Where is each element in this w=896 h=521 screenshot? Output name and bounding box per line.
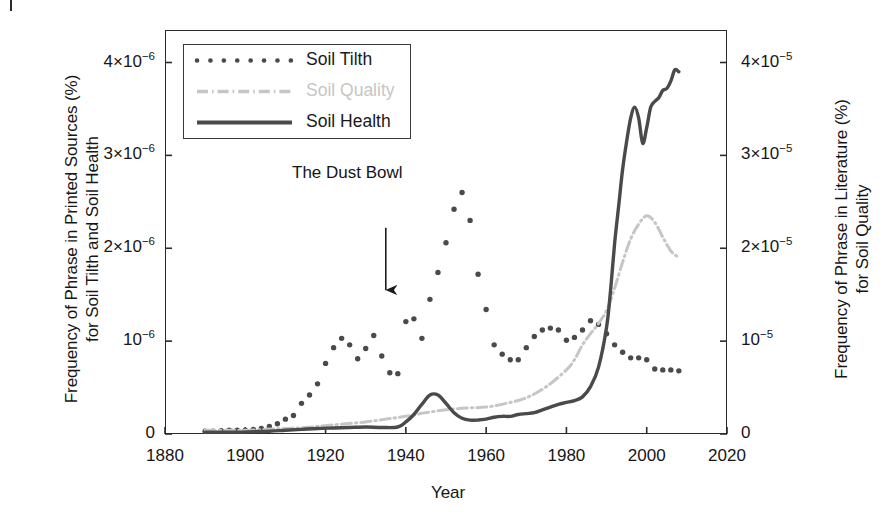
series-point: [556, 327, 561, 332]
series-point: [355, 356, 360, 361]
x-axis-title: Year: [0, 482, 896, 503]
legend-swatch-dashdot: [195, 76, 294, 107]
series-point: [612, 342, 617, 347]
series-point: [347, 342, 352, 347]
series-point: [283, 416, 288, 421]
x-tick-label-1880: 1880: [120, 446, 210, 466]
x-tick-label-1980: 1980: [521, 446, 611, 466]
series-point: [668, 367, 673, 372]
legend-swatch-dotted: [195, 45, 294, 76]
series-point: [403, 319, 408, 324]
series-point: [508, 357, 513, 362]
series-point: [379, 353, 384, 358]
y-tick-label-left-2: 2×10−6: [35, 237, 155, 257]
y-tick-label-left-0: 0: [35, 423, 155, 443]
series-point: [572, 335, 577, 340]
series-point: [467, 218, 472, 223]
legend-label-soil-tilth: Soil Tilth: [306, 49, 372, 70]
series-point: [299, 401, 304, 406]
y-tick-label-right-3: 3×10−5: [741, 144, 871, 164]
series-point: [548, 325, 553, 330]
series-point: [532, 334, 537, 339]
series-point: [419, 336, 424, 341]
series-point: [588, 318, 593, 323]
series-point: [620, 350, 625, 355]
series-point: [676, 368, 681, 373]
series-point: [491, 342, 496, 347]
x-tick-label-1920: 1920: [281, 446, 371, 466]
series-point: [451, 207, 456, 212]
series-point: [500, 351, 505, 356]
x-tick-label-1960: 1960: [441, 446, 531, 466]
y-tick-label-left-3: 3×10−6: [35, 144, 155, 164]
series-point: [331, 345, 336, 350]
series-point: [363, 346, 368, 351]
series-point: [411, 316, 416, 321]
y-tick-label-right-1: 10−5: [741, 330, 871, 350]
x-tick-label-2000: 2000: [602, 446, 692, 466]
series-point: [660, 367, 665, 372]
legend-label-soil-health: Soil Health: [306, 111, 391, 132]
series-point: [564, 338, 569, 343]
y-tick-label-right-4: 4×10−5: [741, 52, 871, 72]
y-tick-label-right-0: 0: [741, 423, 871, 443]
legend-item-soil-health[interactable]: Soil Health: [184, 107, 412, 138]
series-point: [644, 357, 649, 362]
series-point: [339, 336, 344, 341]
x-tick-label-1940: 1940: [361, 446, 451, 466]
x-tick-label-2020: 2020: [682, 446, 772, 466]
series-point: [459, 190, 464, 195]
series-point: [580, 327, 585, 332]
series-point: [427, 297, 432, 302]
dust-bowl-annotation-label: The Dust Bowl: [292, 163, 403, 183]
legend-item-soil-tilth[interactable]: Soil Tilth: [184, 45, 412, 76]
panel-marker: [10, 0, 12, 11]
series-point: [628, 355, 633, 360]
series-point: [483, 307, 488, 312]
y-tick-label-left-4: 4×10−6: [35, 52, 155, 72]
legend-swatch-solid: [195, 107, 294, 138]
y-tick-label-left-1: 10−6: [35, 330, 155, 350]
series-point: [652, 366, 657, 371]
series-point: [307, 392, 312, 397]
series-point: [524, 345, 529, 350]
series-point: [395, 371, 400, 376]
series-point: [275, 421, 280, 426]
legend-box: Soil Tilth Soil Quality Soil Health: [183, 44, 411, 139]
figure-container: Frequency of Phrase in Printed Sources (…: [0, 0, 896, 521]
x-tick-label-1900: 1900: [200, 446, 290, 466]
series-point: [323, 361, 328, 366]
series-point: [443, 240, 448, 245]
series-point: [475, 272, 480, 277]
series-point: [371, 333, 376, 338]
series-point: [315, 381, 320, 386]
series-point: [516, 357, 521, 362]
legend-label-soil-quality: Soil Quality: [306, 80, 395, 101]
y-tick-label-right-2: 2×10−5: [741, 237, 871, 257]
series-point: [636, 355, 641, 360]
series-point: [387, 370, 392, 375]
legend-item-soil-quality[interactable]: Soil Quality: [184, 76, 412, 107]
series-point: [435, 270, 440, 275]
series-point: [540, 327, 545, 332]
series-point: [291, 413, 296, 418]
